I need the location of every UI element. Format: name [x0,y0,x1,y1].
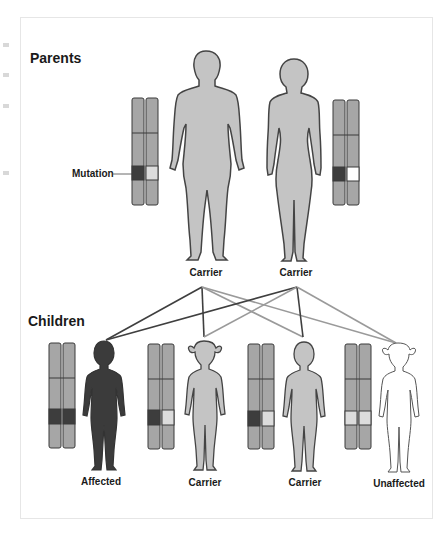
normal-band [347,167,359,181]
child-3-silhouette [283,342,325,471]
father-status-label: Carrier [166,267,246,278]
child-1-silhouette [83,341,125,470]
inheritance-lines [106,287,396,343]
child-1-status-label: Affected [61,476,141,487]
normal-band [146,166,158,180]
mother-chromosome-pair [333,100,359,205]
child-4-chromosome-pair [345,344,371,449]
father-silhouette [170,51,244,260]
child-2-silhouette [185,341,225,470]
father-chromosome-pair [132,98,158,205]
child-3-chromosome-pair [248,344,274,449]
mutant-band [333,167,345,181]
child-4-status-label: Unaffected [359,478,439,489]
child-1-chromosome-pair [49,343,75,448]
child-2-status-label: Carrier [165,477,245,488]
child-2-chromosome-pair [148,344,174,449]
mother-silhouette [267,59,321,261]
child-4-silhouette [379,343,419,472]
mutant-band [132,166,144,180]
mother-status-label: Carrier [256,267,336,278]
child-3-status-label: Carrier [265,477,345,488]
